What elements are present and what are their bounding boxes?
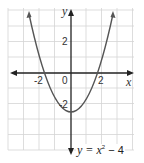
- x-tick-0: 0: [62, 76, 68, 86]
- y-tick-neg2: -2: [59, 100, 68, 110]
- x-axis-left-arrow-icon: [10, 70, 17, 76]
- graph: [0, 0, 144, 163]
- equation-label: y = x2 − 4: [76, 144, 125, 156]
- equation-right: − 4: [105, 144, 124, 156]
- x-tick-neg2: -2: [34, 76, 43, 86]
- y-axis-label: y: [62, 5, 67, 17]
- curve-right-arrow-icon: [111, 11, 116, 18]
- equation-left: y = x: [77, 143, 102, 157]
- y-tick-2: 2: [62, 37, 68, 47]
- x-tick-2: 2: [98, 76, 104, 86]
- curve-left-arrow-icon: [27, 11, 32, 18]
- x-axis-label: x: [126, 76, 131, 88]
- y-axis-down-arrow-icon: [68, 148, 74, 155]
